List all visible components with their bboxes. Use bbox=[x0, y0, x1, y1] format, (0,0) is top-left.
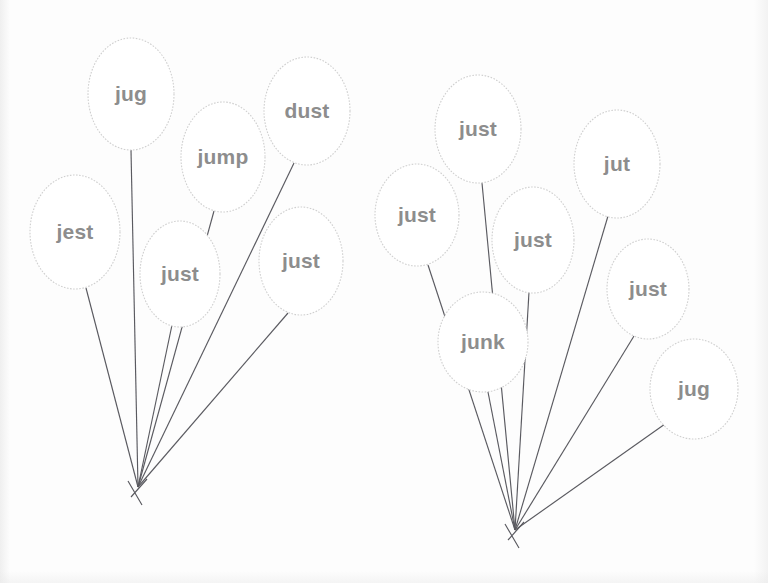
balloon-string bbox=[515, 336, 634, 530]
balloon-string bbox=[86, 288, 138, 487]
balloon-string bbox=[131, 150, 138, 487]
balloon-shape[interactable] bbox=[574, 110, 660, 218]
balloon-shape[interactable] bbox=[140, 221, 220, 327]
balloon-shape[interactable] bbox=[181, 102, 265, 212]
balloon-shape[interactable] bbox=[435, 75, 521, 183]
balloon-bunches-illustration bbox=[0, 0, 768, 583]
balloon-shape[interactable] bbox=[375, 164, 459, 266]
page-edge-shadow-bottom bbox=[0, 571, 768, 583]
balloon-shape[interactable] bbox=[607, 239, 689, 339]
balloon-shape[interactable] bbox=[492, 187, 574, 293]
balloon-shape[interactable] bbox=[264, 57, 350, 165]
balloon-string bbox=[138, 313, 288, 487]
page-edge-shadow-left bbox=[0, 0, 10, 583]
balloon-shape[interactable] bbox=[259, 207, 343, 315]
balloon-string bbox=[515, 424, 665, 530]
balloon-shape[interactable] bbox=[30, 175, 120, 289]
balloon-shape[interactable] bbox=[88, 38, 174, 150]
balloon-string bbox=[138, 325, 172, 487]
balloon-shape[interactable] bbox=[650, 339, 738, 439]
worksheet-canvas: jugjestjumpdustjustjustjustjustjutjustju… bbox=[0, 0, 768, 583]
page-edge-shadow-right bbox=[754, 0, 768, 583]
balloon-string bbox=[138, 163, 294, 487]
balloon-shape[interactable] bbox=[438, 292, 528, 392]
